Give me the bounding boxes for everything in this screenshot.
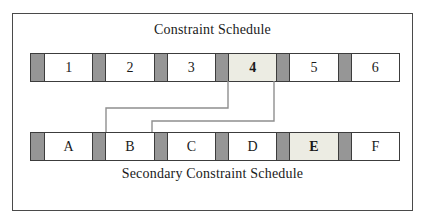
separator-block <box>31 54 45 81</box>
bottom-cell-c: C <box>154 133 215 160</box>
top-slot-2: 2 <box>106 54 153 81</box>
separator-block <box>154 133 168 160</box>
constraint-schedule-title: Constraint Schedule <box>13 22 412 38</box>
top-slot-4: 4 <box>229 54 276 81</box>
separator-block <box>276 54 290 81</box>
separator-block <box>31 133 45 160</box>
top-cell-2: 2 <box>92 54 153 81</box>
top-cell-6: 6 <box>338 54 399 81</box>
separator-block <box>215 54 229 81</box>
bottom-slot-e: E <box>290 133 337 160</box>
top-slot-3: 3 <box>168 54 215 81</box>
top-cell-1: 1 <box>31 54 92 81</box>
bottom-cell-d: D <box>215 133 276 160</box>
bottom-slot-f: F <box>352 133 399 160</box>
bottom-slot-c: C <box>168 133 215 160</box>
figure-canvas: Constraint Schedule 123456 ABCDEF Second… <box>0 0 426 223</box>
separator-block <box>276 133 290 160</box>
separator-block <box>338 54 352 81</box>
bottom-cell-b: B <box>92 133 153 160</box>
top-cell-4: 4 <box>215 54 276 81</box>
separator-block <box>92 133 106 160</box>
top-slot-6: 6 <box>352 54 399 81</box>
bottom-cell-f: F <box>338 133 399 160</box>
bottom-slot-a: A <box>45 133 92 160</box>
top-cell-5: 5 <box>276 54 337 81</box>
separator-block <box>338 133 352 160</box>
separator-block <box>92 54 106 81</box>
top-slot-1: 1 <box>45 54 92 81</box>
bottom-cell-e: E <box>276 133 337 160</box>
top-cell-3: 3 <box>154 54 215 81</box>
separator-block <box>154 54 168 81</box>
bottom-slot-b: B <box>106 133 153 160</box>
separator-block <box>215 133 229 160</box>
constraint-schedule-row: 123456 <box>30 53 400 82</box>
secondary-constraint-schedule-row: ABCDEF <box>30 132 400 161</box>
top-slot-5: 5 <box>290 54 337 81</box>
figure-frame: Constraint Schedule 123456 ABCDEF Second… <box>12 13 413 211</box>
secondary-constraint-schedule-title: Secondary Constraint Schedule <box>13 166 412 182</box>
bottom-cell-a: A <box>31 133 92 160</box>
bottom-slot-d: D <box>229 133 276 160</box>
